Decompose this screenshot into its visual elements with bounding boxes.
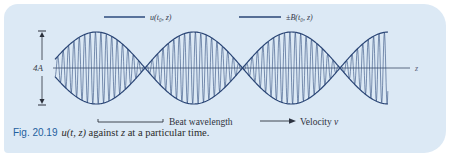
legend-label-envelope: ±B(t₀, z) <box>286 13 313 22</box>
figure-caption: Fig. 20.19u(t, z) against z at a particu… <box>13 127 209 138</box>
caption-math: u(t, z) <box>61 127 86 138</box>
beat-wavelength-bracket: Beat wavelength <box>98 117 233 127</box>
arrow-right-icon <box>289 118 296 124</box>
caption-text-middle: against <box>86 127 121 138</box>
figure-number: Fig. 20.19 <box>13 127 57 138</box>
velocity-annotation: Velocity v <box>260 117 339 127</box>
z-axis-label: z <box>414 64 419 73</box>
caption-text-end: at a particular time. <box>125 127 209 138</box>
beat-wavelength-label: Beat wavelength <box>169 117 233 127</box>
arrow-up-icon <box>40 32 45 37</box>
amplitude-marker: 4A <box>33 31 46 105</box>
arrow-down-icon <box>40 99 45 104</box>
bracket-line <box>98 119 163 122</box>
legend: u(t₀, z) ±B(t₀, z) <box>104 13 313 22</box>
velocity-label: Velocity v <box>300 117 339 127</box>
legend-label-carrier: u(t₀, z) <box>150 13 172 22</box>
amplitude-label: 4A <box>33 63 44 73</box>
